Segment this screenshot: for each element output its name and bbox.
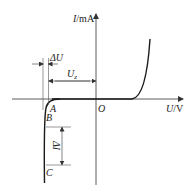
delta-i-label: ΔI [51,140,62,151]
y-axis-label: I/mA [72,13,95,24]
x-axis-label: U/V [166,103,184,114]
origin-label: O [98,103,105,114]
uz-label: Uz [67,68,77,81]
point-c-label: C [46,167,53,178]
point-b-label: B [46,112,52,123]
delta-u-label: ΔU [49,52,64,63]
zener-iv-diagram: ΔU Uz ΔI A B C O I/mA U/V [0,0,193,196]
